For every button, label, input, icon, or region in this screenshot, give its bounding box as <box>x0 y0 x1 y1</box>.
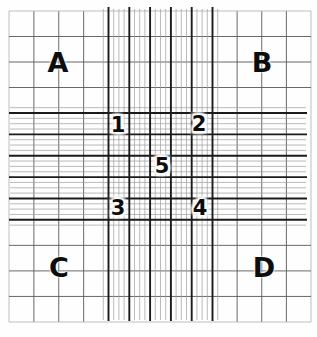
central-square-label-4: 4 <box>193 198 208 219</box>
central-square-label-5: 5 <box>155 156 170 177</box>
central-square-label-3: 3 <box>111 198 126 219</box>
corner-label-c: C <box>49 254 69 281</box>
corner-label-d: D <box>253 254 275 281</box>
corner-label-a: A <box>48 49 69 76</box>
central-square-label-2: 2 <box>192 114 207 135</box>
central-square-label-1: 1 <box>111 115 126 136</box>
corner-label-b: B <box>252 49 273 76</box>
hemocytometer-grid-figure: A B C D 1 2 3 4 5 <box>0 0 317 337</box>
